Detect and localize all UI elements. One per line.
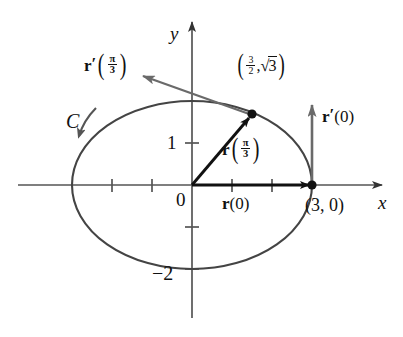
r-symbol-position-pi: r — [222, 141, 230, 158]
paren-open-point: ( — [238, 51, 244, 79]
tangent-vector-pi-over-3-arrow — [143, 76, 252, 115]
curve-direction-arrow — [79, 108, 96, 136]
tangent-zero-arg-value: 0 — [340, 107, 349, 126]
curve-label-c: C — [66, 111, 79, 131]
position-vector-pi-over-3-label: r( π 3 ) — [222, 134, 261, 164]
vector-calculus-figure: y x 0 1 −2 C r′( π 3 ) ( 3 2 ,√3) r′(0) … — [0, 0, 403, 337]
fraction-numerator-pi-position: π — [241, 138, 251, 149]
position-zero-argument: (0) — [230, 195, 250, 212]
paren-close-position-pi: ) — [253, 133, 260, 163]
r-symbol-tangent-pi: r — [84, 57, 92, 74]
figure-canvas — [0, 0, 403, 337]
position-zero-arg-value: 0 — [235, 194, 244, 213]
tangent-zero-argument: (0) — [334, 108, 354, 125]
point-3-0 — [307, 180, 316, 189]
origin-label: 0 — [176, 190, 186, 209]
tangent-vector-pi-over-3-label: r′( π 3 ) — [84, 50, 128, 80]
point-label-3-over-2-sqrt3: ( 3 2 ,√3) — [236, 52, 287, 80]
y-axis-label: y — [170, 24, 178, 43]
r-symbol-tangent-zero: r — [322, 108, 330, 125]
y-tick-label-1: 1 — [167, 133, 177, 152]
position-vector-zero-label: r(0) — [222, 193, 249, 212]
point-at-t-pi-over-3 — [247, 109, 256, 118]
r-symbol-position-zero: r — [222, 195, 230, 212]
axis-y — [185, 22, 199, 318]
paren-open-tangent-pi: ( — [98, 49, 105, 79]
point-label-3-0: (3, 0) — [305, 196, 344, 214]
y-tick-label-minus-2: −2 — [152, 263, 173, 283]
fraction-pi-over-3-tangent: π 3 — [107, 54, 117, 77]
x-axis-label: x — [378, 193, 386, 212]
paren-close-point: ) — [279, 51, 285, 79]
paren-open-position-pi: ( — [231, 133, 238, 163]
tangent-vector-zero-label: r′(0) — [322, 106, 354, 125]
square-root-3: √3 — [260, 58, 277, 74]
fraction-numerator-3: 3 — [246, 55, 255, 65]
fraction-denominator-2: 2 — [246, 65, 255, 76]
prime-mark-tangent-pi: ′ — [92, 54, 97, 73]
fraction-denominator-3-position: 3 — [241, 148, 250, 160]
fraction-denominator-3: 3 — [108, 64, 117, 76]
fraction-numerator-pi: π — [107, 54, 117, 65]
radicand-3: 3 — [268, 56, 277, 74]
fraction-3-over-2: 3 2 — [246, 55, 255, 76]
fraction-pi-over-3-position: π 3 — [241, 138, 251, 161]
paren-close-tangent-pi: ) — [120, 49, 127, 79]
